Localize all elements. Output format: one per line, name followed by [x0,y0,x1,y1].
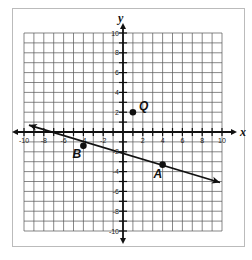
y-tick-label: -6 [113,188,119,195]
y-axis-label: y [116,11,124,25]
point-label: B [72,147,81,161]
y-tick-label: -10 [109,228,119,235]
y-tick-label: 8 [115,49,119,56]
x-tick-label: 10 [218,137,226,144]
y-tick-label: 10 [111,30,119,37]
x-tick-label: -10 [19,137,29,144]
y-tick-label: 4 [115,89,119,96]
x-tick-label: 8 [200,137,204,144]
x-tick-label: -6 [60,137,66,144]
coordinate-plane-figure: xy -10-8-6-4-2246810108642-2-4-6-8-10 QB… [0,0,252,260]
y-tick-label: 2 [115,109,119,116]
x-tick-label: 2 [141,137,145,144]
y-tick-label: 6 [115,69,119,76]
x-tick-label: 4 [161,137,165,144]
x-axis-label: x [239,125,246,139]
point-label: A [153,167,163,181]
point-label: Q [139,99,149,113]
point-marker-icon [130,109,137,116]
y-tick-label: -8 [113,208,119,215]
point-marker-icon [80,143,87,150]
x-tick-label: -2 [100,137,106,144]
figure-frame [13,9,245,247]
y-tick-label: -4 [113,168,119,175]
x-tick-label: 6 [180,137,184,144]
x-tick-label: -8 [41,137,47,144]
